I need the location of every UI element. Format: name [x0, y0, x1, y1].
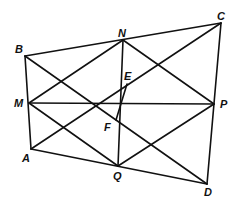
label-M: M [14, 97, 24, 109]
segment-MN [29, 40, 123, 103]
label-A: A [21, 152, 30, 164]
label-P: P [220, 98, 228, 110]
segment-PQ [118, 104, 214, 166]
label-E: E [124, 70, 132, 82]
label-F: F [104, 121, 111, 133]
label-Q: Q [113, 170, 122, 182]
label-B: B [15, 43, 23, 55]
segments [25, 23, 221, 184]
label-C: C [217, 10, 226, 22]
segment-NP [123, 40, 214, 104]
geometry-diagram: A B C D M N P Q E F [0, 0, 238, 205]
label-D: D [204, 186, 212, 198]
label-N: N [118, 27, 127, 39]
